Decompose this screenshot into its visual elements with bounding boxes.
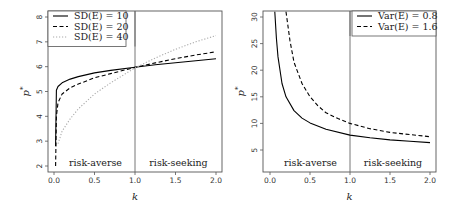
y-tick-label: 25 <box>250 39 259 49</box>
x-tick-label: 0.0 <box>48 176 60 185</box>
x-tick-label: 0.5 <box>89 176 101 185</box>
y-tick-label: 5 <box>35 89 44 94</box>
y-tick-label: 3 <box>35 139 44 144</box>
y-tick-label: 2 <box>35 163 44 168</box>
y-tick-label: 6 <box>35 64 44 69</box>
y-tick-label: 30 <box>250 12 259 22</box>
series-line <box>58 36 216 144</box>
x-tick-label: 2.0 <box>210 176 222 185</box>
y-tick-label: 8 <box>35 14 44 19</box>
y-tick-label: 4 <box>35 114 44 119</box>
y-tick-label: 10 <box>250 118 259 128</box>
x-tick-label: 1.0 <box>344 176 356 185</box>
region-label-risk-seeking: risk-seeking <box>149 157 207 168</box>
series-line <box>56 59 216 146</box>
y-tick-label: 15 <box>250 92 259 102</box>
panel-right: 0.00.51.01.52.051015202530kp*risk-averse… <box>234 10 438 202</box>
legend: SD(E) = 10SD(E) = 20SD(E) = 40 <box>48 10 129 47</box>
x-tick-label: 2.0 <box>424 176 436 185</box>
legend-entry: Var(E) = 1.6 <box>377 21 438 32</box>
x-tick-label: 0.0 <box>264 176 276 185</box>
x-axis-title: k <box>346 191 352 202</box>
region-label-risk-averse: risk-averse <box>284 157 337 168</box>
chart-canvas: 0.00.51.01.52.02345678kp*risk-averserisk… <box>0 0 467 208</box>
x-tick-label: 1.5 <box>170 176 182 185</box>
y-axis-title: p* <box>234 86 246 96</box>
x-tick-label: 0.5 <box>304 176 316 185</box>
legend-entry: SD(E) = 10 <box>74 10 129 21</box>
y-tick-label: 7 <box>35 39 44 44</box>
series-line <box>56 52 216 166</box>
x-axis-title: k <box>132 191 138 202</box>
y-tick-label: 20 <box>250 65 259 75</box>
panel-left: 0.00.51.01.52.02345678kp*risk-averserisk… <box>19 10 222 202</box>
legend-entry: SD(E) = 20 <box>74 21 129 32</box>
y-axis-title: p* <box>19 86 31 96</box>
region-label-risk-averse: risk-averse <box>69 157 122 168</box>
legend: Var(E) = 0.8Var(E) = 1.6 <box>352 10 438 36</box>
legend-entry: SD(E) = 40 <box>74 31 129 42</box>
x-tick-label: 1.5 <box>384 176 396 185</box>
x-tick-label: 1.0 <box>129 176 141 185</box>
region-label-risk-seeking: risk-seeking <box>364 157 422 168</box>
y-tick-label: 5 <box>250 147 259 152</box>
legend-entry: Var(E) = 0.8 <box>377 10 438 21</box>
